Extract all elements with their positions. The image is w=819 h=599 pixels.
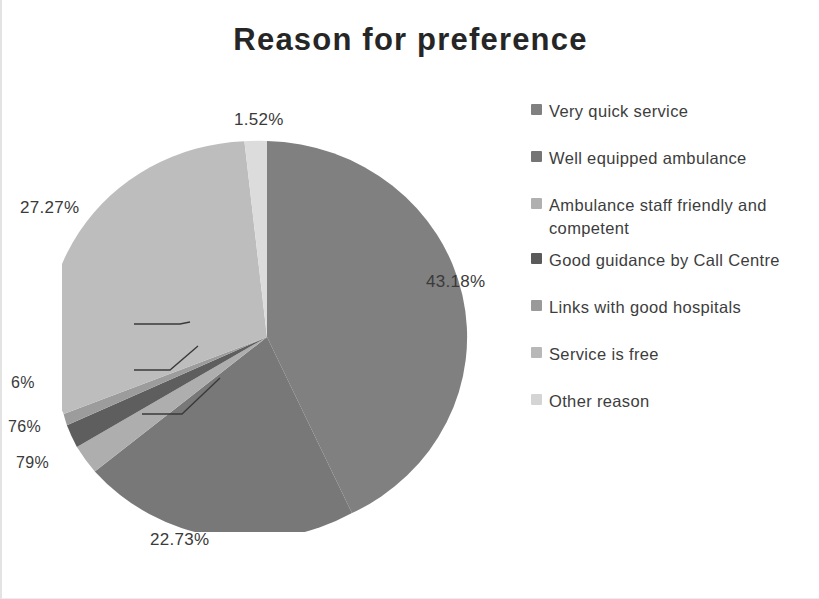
legend-item-label: Good guidance by Call Centre	[549, 249, 780, 272]
legend-item-label: Well equipped ambulance	[549, 147, 747, 170]
data-label-service-is-free: 27.27%	[20, 198, 79, 218]
legend-swatch-icon	[531, 394, 542, 405]
data-label-ambulance-staff-friendly: 79%	[16, 454, 49, 472]
legend-swatch-icon	[531, 151, 542, 162]
legend-item-label: Other reason	[549, 390, 650, 413]
legend-item-label: Ambulance staff friendly and competent	[549, 194, 807, 240]
pie-chart-plot-area	[62, 140, 482, 532]
chart-legend: Very quick service Well equipped ambulan…	[531, 100, 816, 437]
legend-item-very-quick-service[interactable]: Very quick service	[531, 100, 816, 138]
data-label-good-guidance-call-centre: 76%	[8, 418, 41, 436]
legend-item-well-equipped-ambulance[interactable]: Well equipped ambulance	[531, 147, 816, 185]
legend-swatch-icon	[531, 253, 542, 264]
legend-item-label: Links with good hospitals	[549, 296, 741, 319]
legend-item-label: Service is free	[549, 343, 659, 366]
chart-title: Reason for preference	[2, 22, 819, 58]
data-label-links-with-good-hospitals: 6%	[11, 374, 35, 392]
legend-item-good-guidance-call-centre[interactable]: Good guidance by Call Centre	[531, 249, 816, 287]
legend-item-links-with-good-hospitals[interactable]: Links with good hospitals	[531, 296, 816, 334]
data-label-well-equipped-ambulance: 22.73%	[150, 530, 209, 550]
legend-item-ambulance-staff-friendly[interactable]: Ambulance staff friendly and competent	[531, 194, 816, 240]
legend-item-service-is-free[interactable]: Service is free	[531, 343, 816, 381]
legend-swatch-icon	[531, 104, 542, 115]
data-label-other-reason: 1.52%	[234, 110, 284, 130]
legend-item-label: Very quick service	[549, 100, 688, 123]
chart-frame: Reason for preference	[0, 0, 819, 599]
legend-swatch-icon	[531, 198, 542, 209]
legend-swatch-icon	[531, 347, 542, 358]
legend-item-other-reason[interactable]: Other reason	[531, 390, 816, 428]
legend-swatch-icon	[531, 300, 542, 311]
pie-svg	[62, 140, 482, 532]
data-label-very-quick-service: 43.18%	[426, 272, 485, 292]
